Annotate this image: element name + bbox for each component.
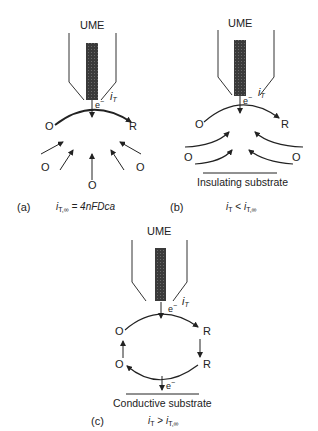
equation-a: iT,∞ = 4nFDca	[56, 202, 115, 213]
equation-c: iT > iT,∞	[148, 416, 179, 427]
species-r-label-b: R	[281, 119, 289, 130]
ume-label-c: UME	[147, 226, 171, 237]
arc-o-to-r-a	[55, 110, 131, 125]
species-r-lower-c: R	[203, 359, 211, 370]
panel-tag-a: (a)	[17, 202, 30, 213]
electron-label-b: e−	[243, 94, 252, 106]
ume-wire-a	[86, 43, 98, 100]
diagram-canvas	[0, 0, 318, 431]
species-o-bulk-center: O	[88, 180, 97, 191]
species-r-label-a: R	[129, 121, 137, 132]
panel-a	[41, 33, 141, 180]
ume-label-a: UME	[80, 20, 104, 31]
insulating-substrate-label: Insulating substrate	[197, 177, 288, 188]
tip-current-label-a: iT	[110, 91, 117, 103]
species-o-upper-c: O	[115, 326, 124, 337]
species-o-bulk-left: O	[41, 162, 50, 173]
panel-c	[123, 240, 200, 394]
arc-o-to-r-b	[204, 105, 279, 122]
tip-current-label-b: iT	[258, 87, 265, 99]
panel-tag-c: (c)	[91, 416, 104, 427]
species-r-upper-c: R	[203, 326, 211, 337]
electron-label-c-bottom: e−	[166, 379, 175, 391]
conductive-substrate-label: Conductive substrate	[113, 398, 212, 409]
ume-label-b: UME	[228, 18, 252, 29]
species-o-bulk-right: O	[136, 162, 145, 173]
ume-wire-c	[155, 248, 166, 301]
electron-label-a: e−	[95, 98, 104, 110]
species-o-side-right-b: O	[292, 152, 301, 163]
species-o-label-b: O	[195, 119, 204, 130]
panel-tag-b: (b)	[170, 202, 183, 213]
tip-current-label-c: iT	[182, 296, 189, 308]
species-o-label-a: O	[45, 121, 54, 132]
species-o-side-left-b: O	[184, 152, 193, 163]
ume-wire-b	[234, 40, 246, 96]
electron-label-c-top: e−	[168, 302, 177, 314]
equation-b: iT < iT,∞	[226, 202, 257, 213]
species-o-lower-c: O	[115, 359, 124, 370]
